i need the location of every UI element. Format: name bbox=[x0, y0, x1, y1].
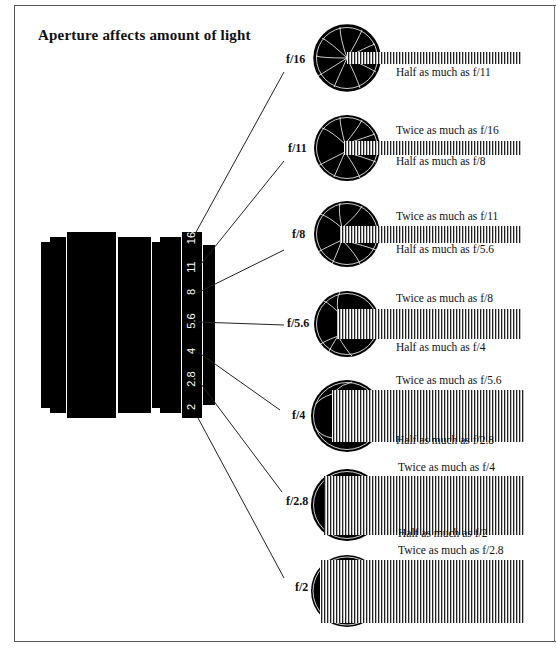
caption-f5-6-twice: Twice as much as f/8 bbox=[396, 292, 493, 304]
caption-f11-half: Half as much as f/8 bbox=[396, 155, 485, 167]
caption-f16-half: Half as much as f/11 bbox=[396, 66, 491, 78]
fstop-label-f8: f/8 bbox=[292, 227, 305, 242]
fstop-label-f2-8: f/2.8 bbox=[286, 494, 308, 509]
caption-f5-6-half: Half as much as f/4 bbox=[396, 341, 485, 353]
scale-11: 11 bbox=[185, 255, 197, 279]
caption-f4-twice: Twice as much as f/5.6 bbox=[396, 374, 502, 386]
fstop-label-f2: f/2 bbox=[295, 580, 308, 595]
aperture-f2 bbox=[311, 555, 524, 627]
caption-f11-twice: Twice as much as f/16 bbox=[396, 124, 499, 136]
caption-f2-twice: Twice as much as f/2.8 bbox=[398, 544, 504, 556]
scale-4: 4 bbox=[185, 339, 197, 363]
fstop-label-f4: f/4 bbox=[292, 408, 305, 423]
caption-f2-8-twice: Twice as much as f/4 bbox=[398, 461, 495, 473]
caption-f2-8-half: Half as much as f/2 bbox=[398, 527, 487, 539]
fstop-label-f11: f/11 bbox=[288, 141, 307, 156]
caption-f4-half: Half as much as f/2.8 bbox=[396, 434, 494, 446]
scale-16: 16 bbox=[185, 226, 197, 250]
fstop-label-f5-6: f/5.6 bbox=[287, 316, 309, 331]
scale-2-8: 2.8 bbox=[185, 367, 197, 391]
fstop-label-f16: f/16 bbox=[286, 52, 305, 67]
caption-f8-twice: Twice as much as f/11 bbox=[396, 210, 498, 222]
scale-5-6: 5.6 bbox=[185, 309, 197, 333]
scale-2: 2 bbox=[185, 395, 197, 419]
aperture-f16 bbox=[314, 25, 522, 91]
caption-f8-half: Half as much as f/5.6 bbox=[396, 243, 494, 255]
scale-8: 8 bbox=[185, 280, 197, 304]
